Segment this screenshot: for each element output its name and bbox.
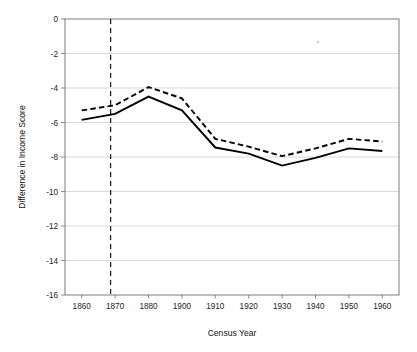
y-tick-label: -4 [51, 84, 59, 93]
x-tick-label: 1870 [106, 302, 125, 311]
scan-speck [317, 41, 319, 43]
x-tick-label: 1880 [139, 302, 158, 311]
y-tick-label: 0 [53, 15, 58, 24]
chart-figure: 0-2-4-6-8-10-12-14-16 186018701880190019… [0, 0, 417, 352]
x-tick-label: 1950 [340, 302, 359, 311]
y-axis-title: Difference in Income Score [17, 105, 27, 209]
x-tick-label: 1860 [73, 302, 92, 311]
y-tick-label: -8 [51, 153, 59, 162]
x-tick-label: 1930 [273, 302, 292, 311]
y-tick-label: -16 [46, 291, 58, 300]
x-tick-label: 1960 [373, 302, 392, 311]
line-chart-canvas: 0-2-4-6-8-10-12-14-16 186018701880190019… [0, 0, 417, 352]
y-axis-tickmarks [61, 19, 65, 295]
y-tick-label: -10 [46, 188, 58, 197]
x-tick-label: 1910 [206, 302, 225, 311]
x-axis-tickmarks [82, 295, 383, 299]
x-tick-label: 1920 [240, 302, 259, 311]
y-tick-label: -12 [46, 222, 58, 231]
x-tick-label: 1900 [173, 302, 192, 311]
y-tick-label: -14 [46, 257, 58, 266]
y-tick-label: -6 [51, 119, 59, 128]
x-axis-title: Census Year [208, 328, 257, 338]
y-axis-tick-labels: 0-2-4-6-8-10-12-14-16 [46, 15, 58, 300]
y-tick-label: -2 [51, 50, 59, 59]
x-axis-tick-labels: 1860187018801900191019201930194019501960 [73, 302, 392, 311]
x-tick-label: 1940 [306, 302, 325, 311]
